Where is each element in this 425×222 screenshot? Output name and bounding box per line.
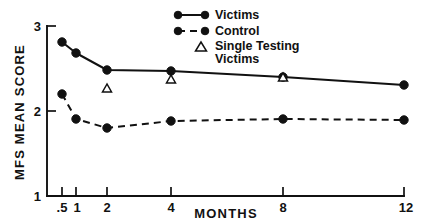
- series-control-point-4: [167, 117, 175, 125]
- series-single-testing-victims-point-4: [167, 75, 176, 83]
- series-victims-point-2: [103, 66, 111, 74]
- x-tick-label-8: 8: [279, 200, 286, 215]
- series-control-line: [62, 94, 404, 128]
- series-control: [58, 90, 408, 132]
- legend-dot-left-icon: [174, 11, 182, 19]
- x-axis-title: MONTHS: [194, 206, 258, 221]
- legend-label-control: Control: [215, 24, 259, 38]
- x-tick-label-0.5: .5: [57, 200, 68, 215]
- x-tick-label-1: 1: [73, 200, 80, 215]
- y-tick-label-1: 1: [34, 189, 41, 204]
- legend-triangle-icon: [196, 42, 207, 51]
- series-control-point-0.5: [58, 90, 66, 98]
- y-axis-title: MFS MEAN SCORE: [12, 44, 27, 180]
- legend-dot-right-dashed-icon: [201, 27, 209, 35]
- series-control-point-2: [103, 124, 111, 132]
- series-single-testing-victims-point-2: [103, 84, 112, 92]
- x-tick-label-2: 2: [103, 200, 110, 215]
- legend-label-victims: Victims: [215, 8, 259, 22]
- series-victims-point-12: [400, 81, 408, 89]
- legend-entry-single-testing-victims: Single Testing Victims: [196, 39, 300, 66]
- chart-legend: Victims Control Single Testing Victims: [174, 8, 299, 66]
- y-tick-label-3: 3: [34, 19, 41, 34]
- series-control-point-8: [279, 115, 287, 123]
- x-tick-label-12: 12: [399, 200, 413, 215]
- legend-label-single-testing-line2: Victims: [215, 52, 259, 66]
- x-tick-label-4: 4: [167, 200, 175, 215]
- legend-entry-victims: Victims: [174, 8, 259, 22]
- legend-dot-right-icon: [201, 11, 209, 19]
- series-control-point-1: [72, 115, 80, 123]
- legend-entry-control: Control: [174, 24, 259, 38]
- series-victims-point-0.5: [58, 38, 66, 46]
- series-victims-point-1: [72, 49, 80, 57]
- legend-dot-left-dashed-icon: [174, 27, 182, 35]
- chart-figure: 3 2 1 .5 1 2 4 8 12 MFS MEAN SCORE MONTH…: [0, 0, 425, 222]
- y-tick-label-2: 2: [34, 104, 41, 119]
- series-control-point-12: [400, 116, 408, 124]
- legend-label-single-testing-line1: Single Testing: [215, 39, 300, 53]
- mfs-mean-score-line-chart: 3 2 1 .5 1 2 4 8 12 MFS MEAN SCORE MONTH…: [0, 0, 425, 222]
